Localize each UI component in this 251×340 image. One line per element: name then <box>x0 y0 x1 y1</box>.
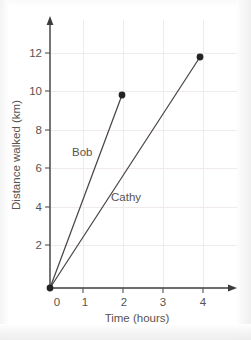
series-cathy-line <box>50 57 200 288</box>
series-cathy-endpoint-marker <box>197 54 204 61</box>
x-tick-labels: 0 1 2 3 4 <box>54 296 207 308</box>
y-axis-title: Distance walked (km) <box>10 100 22 210</box>
distance-time-line-chart: 12 10 8 6 4 2 0 1 2 3 4 Bob Cathy Ti <box>0 0 251 340</box>
y-tick-label-4: 4 <box>36 201 43 213</box>
y-axis <box>47 16 54 288</box>
x-tick-label-2: 2 <box>121 296 127 308</box>
y-tick-label-6: 6 <box>36 162 42 174</box>
x-tick-label-0: 0 <box>54 296 60 308</box>
gridlines-vertical <box>83 20 203 288</box>
y-tick-label-12: 12 <box>29 47 42 59</box>
x-tick-label-4: 4 <box>200 296 207 308</box>
chart-canvas: 12 10 8 6 4 2 0 1 2 3 4 Bob Cathy Ti <box>0 0 251 340</box>
x-tick-label-3: 3 <box>160 296 166 308</box>
x-axis <box>50 285 237 292</box>
series-bob-endpoint-marker <box>119 92 126 99</box>
x-tick-label-1: 1 <box>82 296 88 308</box>
y-tick-marks <box>45 53 50 245</box>
y-tick-label-8: 8 <box>36 124 42 136</box>
series-label-bob: Bob <box>72 146 92 158</box>
x-axis-arrowhead <box>228 285 237 292</box>
y-tick-label-10: 10 <box>29 85 42 97</box>
x-axis-title: Time (hours) <box>105 312 170 324</box>
x-tick-marks <box>83 288 203 293</box>
y-tick-labels: 12 10 8 6 4 2 <box>29 47 42 251</box>
series-label-cathy: Cathy <box>111 191 141 203</box>
origin-marker <box>47 285 54 292</box>
y-axis-arrowhead <box>47 16 54 25</box>
series-cathy <box>50 54 203 288</box>
y-tick-label-2: 2 <box>36 239 42 251</box>
